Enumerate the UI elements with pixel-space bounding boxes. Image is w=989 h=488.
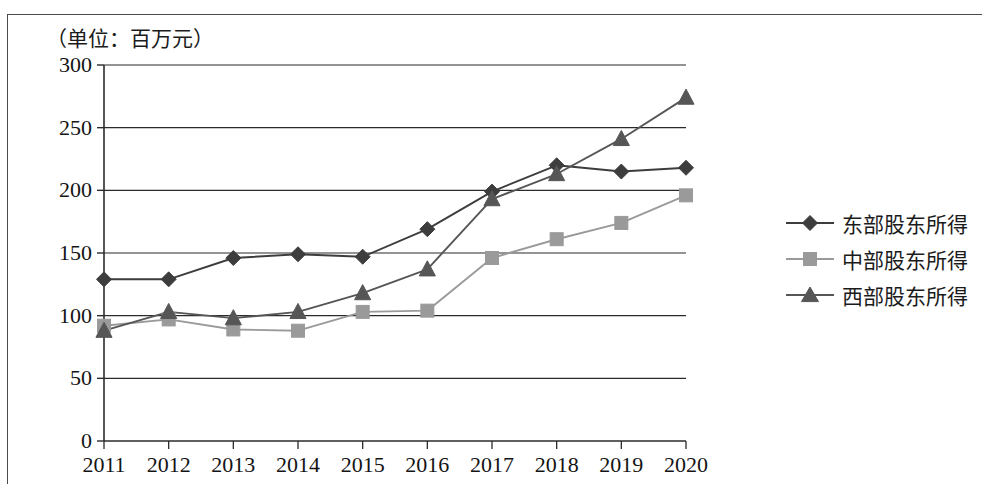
x-tick-label-2013: 2013: [211, 452, 255, 478]
plot-area: [104, 65, 686, 441]
series-1-marker-2020: [680, 189, 693, 202]
series-0-marker-2015: [355, 249, 370, 264]
series-0-marker-2014: [291, 247, 306, 262]
legend-marker-square-icon: [784, 249, 836, 269]
series-1-marker-2016: [421, 304, 434, 317]
y-tick-label-300: 300: [59, 52, 92, 78]
series-1-marker-2017: [486, 252, 499, 265]
series-1-marker-2018: [550, 233, 563, 246]
series-2-marker-2015: [355, 285, 371, 300]
unit-caption: （单位：百万元）: [46, 22, 214, 52]
y-tick-label-100: 100: [59, 303, 92, 329]
legend-key-marker: [803, 216, 818, 231]
legend-key-svg: [784, 213, 836, 233]
series-0-marker-2019: [614, 164, 629, 179]
y-tick-label-250: 250: [59, 115, 92, 141]
series-line-2: [104, 98, 686, 331]
series-2-marker-2012: [161, 303, 177, 318]
series-0-marker-2012: [161, 272, 176, 287]
legend-label: 西部股东所得: [836, 280, 968, 310]
legend-key-marker: [804, 253, 817, 266]
y-tick-label-200: 200: [59, 177, 92, 203]
series-2-marker-2019: [613, 130, 629, 145]
series-1-marker-2014: [292, 324, 305, 337]
y-axis-tick-labels: 050100150200250300: [34, 65, 92, 441]
series-1-marker-2019: [615, 216, 628, 229]
series-0-marker-2016: [420, 222, 435, 237]
x-axis-tick-labels: 2011201220132014201520162017201820192020: [104, 452, 686, 482]
legend-marker-triangle-icon: [784, 285, 836, 305]
x-tick-label-2017: 2017: [470, 452, 514, 478]
y-tick-label-0: 0: [81, 428, 92, 454]
chart-legend: 东部股东所得中部股东所得西部股东所得: [784, 205, 984, 313]
legend-key-svg: [784, 249, 836, 269]
x-tick-label-2016: 2016: [405, 452, 449, 478]
legend-label: 东部股东所得: [836, 208, 968, 238]
legend-item-0[interactable]: 东部股东所得: [784, 205, 984, 241]
legend-label: 中部股东所得: [836, 244, 968, 274]
x-tick-label-2012: 2012: [147, 452, 191, 478]
series-line-0: [104, 165, 686, 279]
x-tick-label-2020: 2020: [664, 452, 708, 478]
x-tick-label-2011: 2011: [82, 452, 125, 478]
y-tick-label-50: 50: [70, 365, 92, 391]
x-tick-label-2014: 2014: [276, 452, 320, 478]
chart-page: （单位：百万元） 050100150200250300 201120122013…: [0, 0, 989, 488]
series-1-marker-2015: [356, 305, 369, 318]
y-tick-label-150: 150: [59, 240, 92, 266]
x-tick-label-2015: 2015: [341, 452, 385, 478]
series-line-1: [104, 195, 686, 330]
legend-item-1[interactable]: 中部股东所得: [784, 241, 984, 277]
x-tick-label-2018: 2018: [535, 452, 579, 478]
plot-svg: [104, 65, 686, 441]
x-tick-label-2019: 2019: [599, 452, 643, 478]
legend-marker-diamond-icon: [784, 213, 836, 233]
legend-item-2[interactable]: 西部股东所得: [784, 277, 984, 313]
legend-key-svg: [784, 285, 836, 305]
